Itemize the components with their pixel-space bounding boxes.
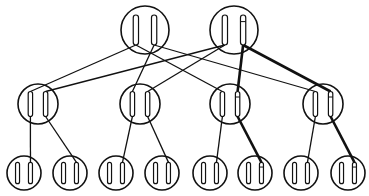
edge-m3-l5 xyxy=(216,117,222,163)
slot-marked-icon xyxy=(240,15,245,45)
slot-plain-icon xyxy=(151,15,156,45)
slot-plain-icon xyxy=(74,162,78,183)
edge-r2-m2 xyxy=(148,45,225,92)
node-r1 xyxy=(121,6,169,54)
slot-plain-icon xyxy=(220,92,224,117)
slot-plain-icon xyxy=(247,162,251,183)
node-r2 xyxy=(210,6,258,54)
slot-plain-icon xyxy=(133,15,138,45)
tree-diagram xyxy=(0,0,369,196)
node-layer xyxy=(7,6,365,190)
slot-plain-icon xyxy=(305,162,309,183)
slot-plain-icon xyxy=(43,92,47,117)
node-l4 xyxy=(145,156,179,190)
edge-layer xyxy=(30,45,354,162)
node-m1 xyxy=(18,84,58,124)
node-circle xyxy=(284,156,318,190)
slot-plain-icon xyxy=(313,92,317,117)
slot-marked-icon xyxy=(259,162,263,183)
node-circle xyxy=(18,84,58,124)
node-circle xyxy=(193,156,227,190)
slot-marked-icon xyxy=(328,92,332,117)
node-circle xyxy=(145,156,179,190)
node-m2 xyxy=(120,84,160,124)
node-circle xyxy=(331,156,365,190)
node-l3 xyxy=(99,156,133,190)
node-circle xyxy=(99,156,133,190)
node-circle xyxy=(210,84,250,124)
node-circle xyxy=(7,156,41,190)
slot-plain-icon xyxy=(108,162,112,183)
slot-plain-icon xyxy=(202,162,206,183)
slot-plain-icon xyxy=(154,162,158,183)
slot-marked-icon xyxy=(352,162,356,183)
slot-plain-icon xyxy=(145,92,149,117)
slot-plain-icon xyxy=(340,162,344,183)
node-l1 xyxy=(7,156,41,190)
slot-plain-icon xyxy=(62,162,66,183)
edge-m2-l3 xyxy=(122,117,132,163)
node-m4 xyxy=(303,84,343,124)
node-circle xyxy=(53,156,87,190)
node-circle xyxy=(120,84,160,124)
node-l6 xyxy=(238,156,272,190)
node-l2 xyxy=(53,156,87,190)
slot-plain-icon xyxy=(16,162,20,183)
slot-plain-icon xyxy=(28,92,32,117)
slot-plain-icon xyxy=(120,162,124,183)
node-m3 xyxy=(210,84,250,124)
slot-marked-icon xyxy=(235,92,239,117)
node-circle xyxy=(121,6,169,54)
node-circle xyxy=(238,156,272,190)
node-circle xyxy=(303,84,343,124)
edge-m4-l7 xyxy=(307,117,315,163)
slot-plain-icon xyxy=(293,162,297,183)
edge-r1-m1 xyxy=(30,45,135,92)
slot-plain-icon xyxy=(166,162,170,183)
edge-m2-l4 xyxy=(148,117,169,163)
node-l5 xyxy=(193,156,227,190)
node-circle xyxy=(210,6,258,54)
slot-plain-icon xyxy=(130,92,134,117)
slot-plain-icon xyxy=(28,162,32,183)
slot-plain-icon xyxy=(222,15,227,45)
node-l8 xyxy=(331,156,365,190)
node-l7 xyxy=(284,156,318,190)
slot-plain-icon xyxy=(214,162,218,183)
